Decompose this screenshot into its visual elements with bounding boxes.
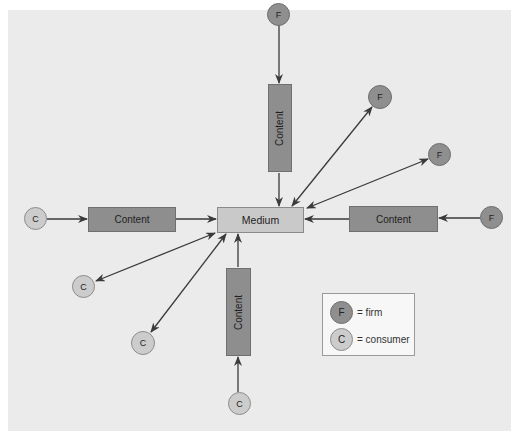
content-label: Content <box>233 294 244 329</box>
medium-label: Medium <box>242 214 279 226</box>
firm-node-top: F <box>267 3 290 26</box>
content-label: Content <box>376 214 411 225</box>
consumer-node-lower-left-2: C <box>131 331 155 355</box>
content-box-right: Content <box>349 206 438 232</box>
legend-symbol: F <box>338 307 344 318</box>
firm-node-label: F <box>276 10 282 20</box>
firm-node-upper-right-1: F <box>368 85 392 109</box>
firm-node-upper-right-2: F <box>428 143 451 166</box>
legend-item-firm: F = firm <box>330 301 382 324</box>
firm-node-label: F <box>489 213 495 223</box>
content-label: Content <box>114 214 149 225</box>
consumer-node-label: C <box>80 282 87 292</box>
arrow-medium-consumer-lower-left-2 <box>151 234 226 332</box>
firm-node-label: F <box>377 92 383 102</box>
arrow-medium-firm-upper-right-2 <box>307 159 428 208</box>
consumer-node-left: C <box>24 207 47 230</box>
legend-item-consumer: C = consumer <box>330 328 410 351</box>
legend-firm-icon: F <box>330 301 353 324</box>
legend-symbol: C <box>338 334 345 345</box>
content-box-bottom: Content <box>226 268 251 356</box>
arrow-medium-consumer-lower-left-1 <box>96 233 215 281</box>
content-box-top: Content <box>268 84 292 172</box>
consumer-node-lower-left-1: C <box>72 275 95 298</box>
content-box-left: Content <box>88 207 176 232</box>
legend-label: = consumer <box>357 334 410 345</box>
arrow-medium-firm-upper-right-1 <box>292 107 372 206</box>
consumer-node-bottom: C <box>228 392 251 415</box>
medium-box: Medium <box>217 207 304 233</box>
content-label: Content <box>275 110 286 145</box>
consumer-node-label: C <box>140 338 147 348</box>
firm-node-label: F <box>437 150 443 160</box>
legend-label: = firm <box>357 307 382 318</box>
consumer-node-label: C <box>32 214 39 224</box>
legend: F = firm C = consumer <box>322 293 415 356</box>
legend-consumer-icon: C <box>330 328 353 351</box>
consumer-node-label: C <box>236 399 243 409</box>
firm-node-right: F <box>480 206 503 229</box>
